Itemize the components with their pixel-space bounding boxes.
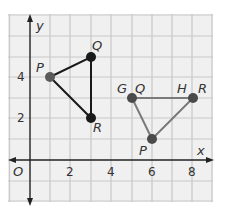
origin-label: O	[13, 164, 23, 179]
label-r: R	[93, 120, 102, 135]
y-tick-4: 4	[17, 70, 25, 84]
label-p: P	[36, 60, 44, 75]
label-r-image: R	[198, 81, 207, 96]
x-tick-8: 8	[188, 165, 196, 179]
point-h-r	[188, 93, 198, 103]
coordinate-plane: y x O 2 4 6 8 2 4 P Q R G Q H R P	[0, 0, 226, 212]
label-q-image: Q	[135, 81, 145, 96]
x-tick-6: 6	[148, 165, 156, 179]
point-p-image	[147, 134, 157, 144]
label-g: G	[117, 81, 127, 96]
x-tick-4: 4	[107, 165, 115, 179]
y-tick-2: 2	[17, 111, 25, 125]
label-p-image: P	[139, 143, 147, 158]
point-q	[86, 52, 96, 62]
point-p	[45, 72, 55, 82]
y-axis-label: y	[35, 18, 44, 33]
x-tick-2: 2	[66, 165, 74, 179]
label-q: Q	[92, 38, 102, 53]
x-axis-label: x	[196, 143, 205, 158]
label-h: H	[177, 81, 187, 96]
